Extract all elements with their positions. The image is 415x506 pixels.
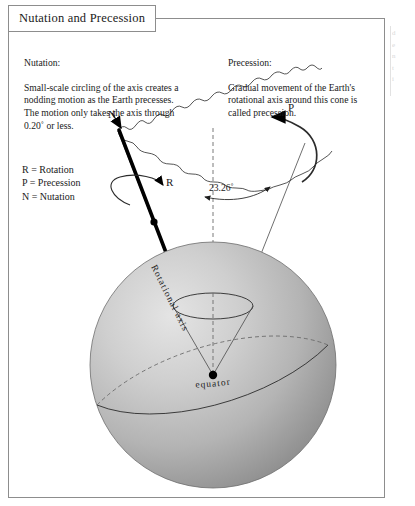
figure-title-box: Nutation and Precession bbox=[8, 5, 156, 32]
precession-description: Precession: Gradual movement of the Eart… bbox=[228, 44, 378, 120]
sphere-center-dot bbox=[209, 371, 217, 379]
nutation-body: Small-scale circling of the axis creates… bbox=[24, 82, 179, 131]
nutation-heading: Nutation: bbox=[24, 57, 184, 70]
nutation-marker-label: N bbox=[108, 108, 116, 120]
legend-key: R = Rotation P = Precession N = Nutation bbox=[22, 163, 81, 203]
nutation-description: Nutation: Small-scale circling of the ax… bbox=[24, 44, 184, 132]
tilt-angle-label: 23.26˚ bbox=[209, 182, 234, 193]
precession-marker-label: P bbox=[288, 101, 294, 113]
precession-heading: Precession: bbox=[228, 57, 378, 70]
axis-surface-dot bbox=[150, 218, 157, 225]
page-title: Nutation and Precession bbox=[19, 11, 145, 26]
precession-arrow bbox=[272, 117, 317, 182]
figure-root: Nutation and Precession d e n t i bbox=[0, 0, 415, 506]
rotation-marker-label: R bbox=[166, 176, 173, 188]
